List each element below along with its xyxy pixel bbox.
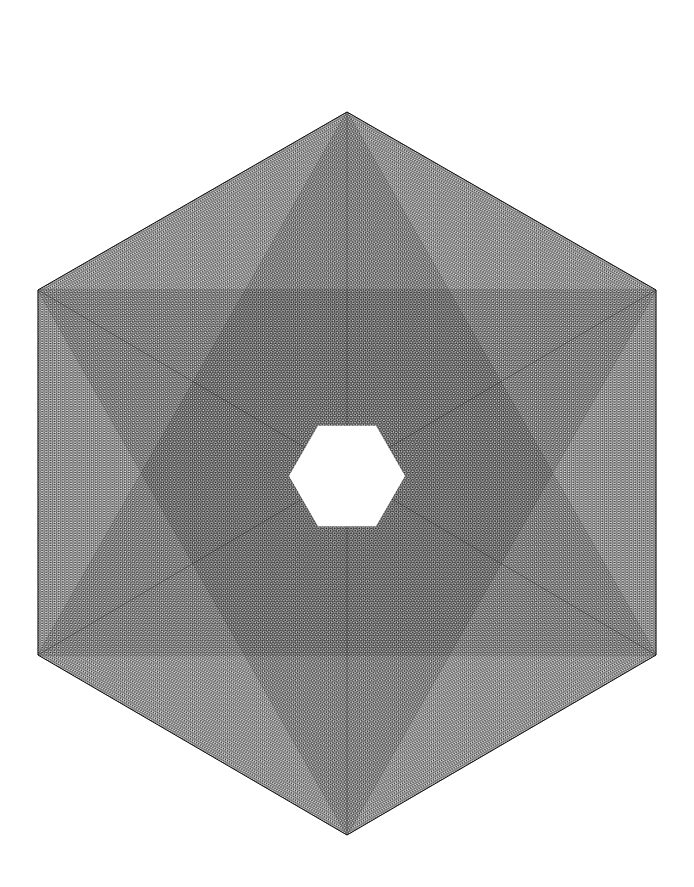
string-art-figure: Hexagonal String-Art Rosette Monochrome … [0,0,694,887]
artboard: Hexagonal String-Art Rosette Monochrome … [0,0,694,887]
